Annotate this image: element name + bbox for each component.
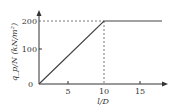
y-axis-arrow-icon [37,10,42,16]
data-line [39,21,162,84]
x-tick-label: 5 [65,87,70,96]
y-axis-label: q_p/N (kN/m²) [10,23,19,81]
y-tick-label: 200 [22,17,37,26]
y-tick-label: 0 [28,80,33,89]
x-axis-arrow-icon [162,82,168,87]
chart: 0 100 200 5 10 15 l/D q_p/N (kN/m²) [0,0,172,112]
x-tick-label: 10 [99,87,109,96]
x-tick-label: 15 [135,87,145,96]
y-tick-label: 100 [22,45,37,54]
x-axis-label: l/D [97,97,109,106]
